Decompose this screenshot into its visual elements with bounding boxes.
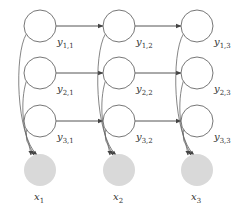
label-x3: x3 [191,191,201,205]
observed-node-x3 [181,154,213,186]
label-y22: y2,2 [135,83,153,97]
label-y12: y1,2 [135,36,153,50]
label-x2: x2 [113,191,123,205]
hidden-node-y12 [103,10,135,42]
edge-y11-x1 [19,34,37,155]
diagram-svg: y1,1y1,2y1,3y2,1y2,2y2,3y3,1y3,2y3,3x1x2… [0,0,244,212]
hidden-node-y32 [103,105,135,137]
label-x1: x1 [34,191,44,205]
label-y21: y2,1 [56,83,74,97]
hidden-node-y33 [181,105,213,137]
observed-node-x1 [24,154,56,186]
hidden-node-y13 [181,10,213,42]
hidden-node-y23 [181,57,213,89]
label-y31: y3,1 [56,131,74,145]
graphical-model-diagram: y1,1y1,2y1,3y2,1y2,2y2,3y3,1y3,2y3,3x1x2… [0,0,244,212]
edge-y13-x3 [176,34,194,155]
hidden-node-y11 [24,10,56,42]
hidden-node-y31 [24,105,56,137]
label-y13: y1,3 [213,36,231,50]
hidden-node-y22 [103,57,135,89]
label-y33: y3,3 [213,131,231,145]
hidden-node-y21 [24,57,56,89]
edge-y12-x2 [98,34,116,155]
observed-node-x2 [103,154,135,186]
label-y23: y2,3 [213,83,231,97]
label-y11: y1,1 [56,36,74,50]
nodes-layer [24,10,213,186]
label-y32: y3,2 [135,131,153,145]
